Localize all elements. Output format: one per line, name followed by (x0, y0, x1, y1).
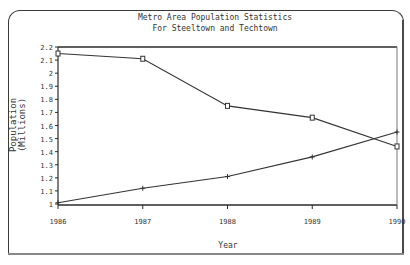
square-marker (141, 56, 145, 61)
square-marker (226, 103, 230, 108)
line-chart: Metro Area Population Statistics For Ste… (0, 0, 410, 265)
x-tick-label: 1988 (219, 218, 236, 226)
y-tick-label: 1.4 (40, 149, 53, 157)
y-tick-label: 1.8 (40, 96, 53, 104)
series-techtown (58, 132, 397, 203)
y-tick-label: 1.2 (40, 175, 53, 183)
y-tick-label: 1.5 (40, 136, 53, 144)
y-tick-label: 2.1 (40, 57, 53, 65)
axes (58, 47, 397, 205)
square-marker (310, 115, 314, 120)
y-tick-label: 2 (49, 70, 53, 78)
x-tick-label: 1986 (50, 218, 67, 226)
y-axis-label-line2: (Millions) (17, 98, 27, 152)
x-tick-label: 1990 (389, 218, 406, 226)
y-tick-label: 2.2 (40, 44, 53, 52)
square-marker (395, 144, 399, 149)
x-axis-label: Year (218, 241, 237, 250)
series-lines (56, 51, 400, 205)
y-tick-label: 1.7 (40, 109, 53, 117)
square-marker (56, 51, 60, 56)
series-steeltown (58, 54, 397, 147)
chart-subtitle: For Steeltown and Techtown (152, 24, 277, 33)
y-tick-label: 1.9 (40, 83, 53, 91)
y-tick-label: 1.6 (40, 123, 53, 131)
x-tick-label: 1989 (304, 218, 321, 226)
y-tick-label: 1.3 (40, 162, 53, 170)
y-tick-label: 1.1 (40, 188, 53, 196)
y-tick-label: 1 (49, 201, 53, 209)
chart-title: Metro Area Population Statistics (138, 13, 292, 22)
ticks: 11.11.21.31.41.51.61.71.81.922.12.219861… (40, 44, 405, 226)
x-tick-label: 1987 (134, 218, 151, 226)
